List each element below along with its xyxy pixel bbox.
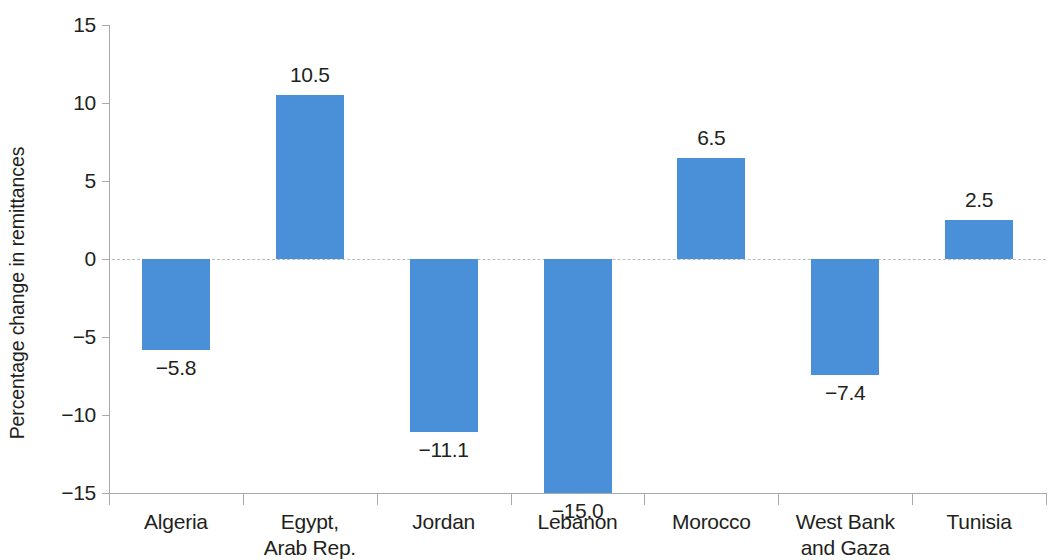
category-label: Tunisia <box>946 509 1011 535</box>
y-tick-mark <box>102 415 110 416</box>
y-tick: −5 <box>0 337 96 338</box>
category-label-line: West Bank <box>796 510 895 533</box>
y-tick-label: 15 <box>32 13 96 37</box>
bar-value-label: −7.4 <box>825 381 865 405</box>
category-label: Jordan <box>412 509 475 535</box>
y-tick-label: 5 <box>32 169 96 193</box>
x-tick-mark <box>109 493 110 505</box>
bar-value-label: 2.5 <box>965 188 993 212</box>
category-label-line: Morocco <box>672 510 751 533</box>
y-tick-label: −5 <box>32 325 96 349</box>
x-tick-mark <box>377 493 378 505</box>
bar <box>276 95 344 259</box>
category-label-line: Arab Rep. <box>264 535 356 560</box>
y-tick-mark <box>102 25 110 26</box>
category-label-line: Jordan <box>412 510 475 533</box>
category-label-line: and Gaza <box>796 535 895 560</box>
category-label-line: Egypt, <box>281 510 339 533</box>
y-tick-mark <box>102 337 110 338</box>
bar-value-label: −11.1 <box>419 438 469 462</box>
y-tick-mark <box>102 103 110 104</box>
y-tick: −10 <box>0 415 96 416</box>
bar <box>811 259 879 374</box>
x-tick-mark <box>243 493 244 505</box>
category-label-line: Lebanon <box>537 510 617 533</box>
bar-value-label: −5.8 <box>156 356 196 380</box>
bar <box>945 220 1013 259</box>
y-tick: −15 <box>0 493 96 494</box>
bar-value-label: 6.5 <box>697 126 725 150</box>
category-label-line: Tunisia <box>946 510 1011 533</box>
x-tick-mark <box>511 493 512 505</box>
category-label: Algeria <box>144 509 208 535</box>
y-axis-title-text: Percentage change in remittances <box>6 147 29 440</box>
y-tick: 10 <box>0 103 96 104</box>
bar <box>142 259 210 349</box>
category-label: West Bankand Gaza <box>796 509 895 560</box>
category-label: Egypt,Arab Rep. <box>264 509 356 560</box>
x-tick-mark <box>644 493 645 505</box>
category-label-line: Algeria <box>144 510 208 533</box>
bar <box>677 158 745 259</box>
y-tick-label: −10 <box>32 403 96 427</box>
x-tick-mark <box>1046 493 1047 505</box>
y-axis-title: Percentage change in remittances <box>0 0 34 555</box>
y-tick-mark <box>102 181 110 182</box>
x-tick-mark <box>912 493 913 505</box>
category-label: Lebanon <box>537 509 617 535</box>
y-tick: 5 <box>0 181 96 182</box>
y-tick-label: −15 <box>32 481 96 505</box>
y-tick: 0 <box>0 259 96 260</box>
category-label: Morocco <box>672 509 751 535</box>
y-tick-mark <box>102 259 110 260</box>
y-tick-label: 0 <box>32 247 96 271</box>
bar <box>410 259 478 432</box>
bar <box>544 259 612 493</box>
x-tick-mark <box>778 493 779 505</box>
bar-value-label: 10.5 <box>290 63 330 87</box>
y-tick: 15 <box>0 25 96 26</box>
y-tick-label: 10 <box>32 91 96 115</box>
